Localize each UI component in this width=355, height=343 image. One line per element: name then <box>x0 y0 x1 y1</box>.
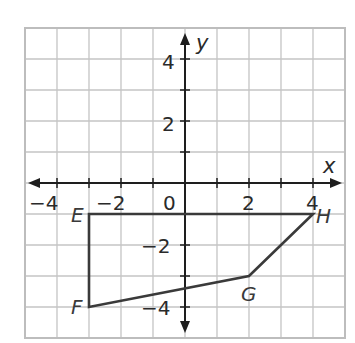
vertex-label-h: H <box>316 204 331 228</box>
x-axis-right-arrow-icon <box>330 178 342 188</box>
vertex-label-e: E <box>71 203 84 227</box>
y-axis-down-arrow-icon <box>180 321 190 333</box>
x-axis-label: x <box>322 154 336 178</box>
vertex-label-g: G <box>241 282 257 306</box>
y-axis-up-arrow-icon <box>180 33 190 45</box>
polygon-efgh <box>89 214 313 307</box>
x-axis-left-arrow-icon <box>28 178 40 188</box>
y-tick-label-neg2: −2 <box>141 234 170 258</box>
coordinate-plane: x y −4 −2 0 2 4 4 2 −2 −4 E F G H <box>0 0 355 343</box>
vertex-label-f: F <box>71 295 83 319</box>
x-tick-label-2: 2 <box>242 191 255 215</box>
y-tick-label-2: 2 <box>162 112 175 136</box>
x-tick-label-neg4: −4 <box>29 191 58 215</box>
y-tick-label-4: 4 <box>162 50 175 74</box>
y-tick-label-neg4: −4 <box>141 296 170 320</box>
y-axis-label: y <box>195 31 209 55</box>
x-tick-label-neg2: −2 <box>96 191 125 215</box>
x-tick-label-0: 0 <box>163 191 176 215</box>
